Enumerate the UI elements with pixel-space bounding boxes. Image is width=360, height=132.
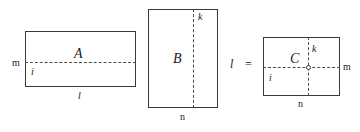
rectangle-c-horizontal-dashed-line	[263, 67, 340, 68]
rectangle-c-inner-label-i: i	[269, 73, 272, 83]
rectangle-a-label: A	[74, 47, 83, 61]
middle-label-l: l	[230, 58, 233, 70]
rectangle-a-bottom-label-l: l	[78, 91, 81, 101]
rectangle-c-top-label-k: k	[312, 44, 316, 54]
rectangle-b-vertical-dashed-line	[193, 9, 194, 108]
diagram-canvas: A m i l B k n l = C k m i n	[0, 0, 360, 132]
rectangle-b-label: B	[173, 52, 182, 66]
rectangle-a-inner-label-i: i	[31, 67, 34, 77]
rectangle-a-left-label-m: m	[12, 58, 20, 68]
rectangle-c-bottom-label-n: n	[298, 99, 303, 109]
rectangle-a-horizontal-dashed-line	[25, 62, 136, 63]
equals-operator: =	[245, 58, 252, 70]
rectangle-b-top-label-k: k	[198, 12, 202, 22]
rectangle-b-bottom-label-n: n	[180, 112, 185, 122]
rectangle-c-right-label-m: m	[343, 62, 351, 72]
rectangle-b	[148, 9, 218, 108]
rectangle-c-label: C	[290, 52, 299, 66]
rectangle-c-crossing-node	[306, 65, 311, 70]
